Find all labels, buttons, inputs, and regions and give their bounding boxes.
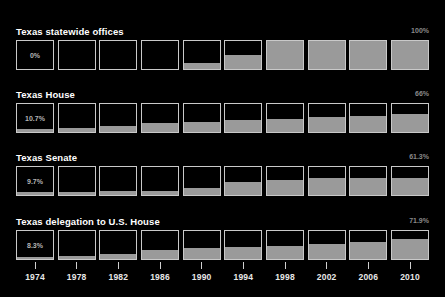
chart-cell-fill <box>267 119 303 132</box>
chart-cell-fill <box>184 248 220 259</box>
chart-cell-fill <box>225 55 261 69</box>
chart-cell-fill <box>309 178 345 195</box>
chart-cell <box>266 103 304 133</box>
chart-cell-fill <box>392 114 428 132</box>
chart-cell <box>266 166 304 196</box>
x-axis-tick-group: 1998 <box>266 262 304 282</box>
chart-cell <box>349 166 387 196</box>
x-axis-tick-group: 2010 <box>391 262 429 282</box>
chart-cell <box>99 103 137 133</box>
x-axis-tick-label: 1974 <box>16 272 54 282</box>
chart-cell <box>58 40 96 70</box>
chart-cell-value-label: 9.7% <box>17 178 53 185</box>
chart-cell-value-label: 0% <box>17 52 53 59</box>
chart-cell <box>224 230 262 260</box>
x-axis-tick-mark <box>35 262 36 269</box>
chart-cell: 8.3% <box>16 230 54 260</box>
chart-panel: Texas House66%10.7% <box>0 89 445 103</box>
chart-cell-fill <box>100 126 136 132</box>
panel-title: Texas delegation to U.S. House <box>16 216 160 227</box>
chart-cell <box>141 103 179 133</box>
x-axis-tick-label: 1978 <box>58 272 96 282</box>
x-axis-tick-label: 1990 <box>183 272 221 282</box>
x-axis: 1974197819821986199019941998200220062010 <box>16 262 429 288</box>
chart-cell <box>141 230 179 260</box>
chart-cell <box>349 103 387 133</box>
chart-cell <box>391 230 429 260</box>
chart-cell <box>308 166 346 196</box>
chart-container: Texas statewide offices100%0%Texas House… <box>0 0 445 297</box>
chart-panel: Texas delegation to U.S. House71.9%8.3% <box>0 216 445 230</box>
x-axis-tick-mark <box>76 262 77 269</box>
chart-cell <box>308 40 346 70</box>
chart-cell <box>391 40 429 70</box>
chart-cell-fill <box>59 128 95 132</box>
chart-cell-value-label: 10.7% <box>17 115 53 122</box>
chart-cell-fill <box>17 129 53 132</box>
panel-cell-row: 9.7% <box>16 166 429 196</box>
panel-end-value-label: 61.3% <box>409 153 429 160</box>
chart-cell <box>349 40 387 70</box>
x-axis-tick-group: 2006 <box>349 262 387 282</box>
chart-cell-fill <box>142 123 178 132</box>
x-axis-tick-mark <box>285 262 286 269</box>
chart-cell-fill <box>17 257 53 259</box>
panel-cell-row: 0% <box>16 40 429 70</box>
x-axis-tick-label: 2002 <box>308 272 346 282</box>
x-axis-tick-label: 1986 <box>141 272 179 282</box>
x-axis-tick-label: 1998 <box>266 272 304 282</box>
x-axis-tick-group: 1974 <box>16 262 54 282</box>
chart-cell: 0% <box>16 40 54 70</box>
chart-cell <box>58 230 96 260</box>
chart-cell-value-label: 8.3% <box>17 242 53 249</box>
chart-cell-fill <box>142 250 178 259</box>
panel-cell-row: 8.3% <box>16 230 429 260</box>
chart-cell-fill <box>350 116 386 132</box>
panel-title: Texas statewide offices <box>16 26 124 37</box>
x-axis-tick-mark <box>201 262 202 269</box>
chart-cell-fill <box>350 178 386 195</box>
x-axis-tick-mark <box>160 262 161 269</box>
x-axis-tick-mark <box>326 262 327 269</box>
panel-title: Texas Senate <box>16 152 77 163</box>
panel-title: Texas House <box>16 89 75 100</box>
panel-header: Texas Senate61.3% <box>0 152 445 166</box>
chart-cell-fill <box>392 178 428 195</box>
chart-cell <box>141 40 179 70</box>
x-axis-tick-mark <box>410 262 411 269</box>
x-axis-tick-group: 1978 <box>58 262 96 282</box>
chart-cell <box>391 166 429 196</box>
chart-cell-fill <box>17 192 53 195</box>
chart-cell <box>308 103 346 133</box>
chart-cell-fill <box>267 41 303 69</box>
chart-cell-fill <box>309 244 345 259</box>
chart-cell: 9.7% <box>16 166 54 196</box>
x-axis-tick-group: 2002 <box>308 262 346 282</box>
chart-cell-fill <box>392 239 428 259</box>
chart-cell-fill <box>225 247 261 259</box>
chart-cell-fill <box>309 41 345 69</box>
chart-cell <box>58 103 96 133</box>
chart-cell: 10.7% <box>16 103 54 133</box>
chart-cell <box>308 230 346 260</box>
panel-header: Texas delegation to U.S. House71.9% <box>0 216 445 230</box>
chart-cell-fill <box>392 41 428 69</box>
chart-cell <box>99 166 137 196</box>
chart-cell-fill <box>225 182 261 195</box>
chart-cell <box>224 40 262 70</box>
panel-end-value-label: 66% <box>415 90 429 97</box>
x-axis-tick-group: 1982 <box>99 262 137 282</box>
chart-cell <box>183 230 221 260</box>
chart-cell-fill <box>309 117 345 132</box>
chart-cell <box>266 230 304 260</box>
chart-cell <box>266 40 304 70</box>
chart-cell-fill <box>267 246 303 259</box>
chart-cell-fill <box>100 254 136 259</box>
chart-cell-fill <box>184 188 220 195</box>
chart-cell <box>99 230 137 260</box>
chart-cell-fill <box>350 242 386 259</box>
chart-cell <box>183 103 221 133</box>
chart-cell-fill <box>59 256 95 259</box>
panel-header: Texas House66% <box>0 89 445 103</box>
chart-cell-fill <box>267 180 303 195</box>
